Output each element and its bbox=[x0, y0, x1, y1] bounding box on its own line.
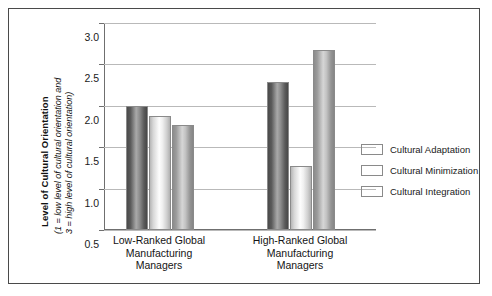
y-axis-line bbox=[104, 23, 105, 230]
bar-minim-group1 bbox=[149, 116, 171, 230]
y-axis-tick bbox=[99, 23, 104, 24]
y-axis-tick bbox=[99, 64, 104, 65]
gridline bbox=[104, 230, 376, 231]
y-axis-tick-label: 2.0 bbox=[69, 114, 99, 126]
plot-area bbox=[104, 23, 376, 230]
x-axis-category-label: Low-Ranked GlobalManufacturingManagers bbox=[84, 234, 234, 272]
y-axis-tick bbox=[99, 189, 104, 190]
y-axis-subtitle-line1: (1 = low level of cultural orientation a… bbox=[53, 78, 63, 234]
chart-frame: Level of Cultural Orientation (1 = low l… bbox=[8, 8, 480, 284]
y-axis-tick-label: 1.5 bbox=[69, 155, 99, 167]
bar-adapt-group2 bbox=[267, 82, 289, 230]
chart-legend: Cultural AdaptationCultural Minimization… bbox=[361, 141, 486, 204]
y-axis-tick-label: 1.0 bbox=[69, 197, 99, 209]
legend-label: Cultural Minimization bbox=[390, 165, 478, 176]
legend-swatch-integ bbox=[361, 186, 383, 197]
y-axis-tick bbox=[99, 147, 104, 148]
x-axis-category-label: High-Ranked GlobalManufacturingManagers bbox=[225, 234, 375, 272]
bar-integ-group2 bbox=[313, 50, 335, 230]
x-axis-category-label-line: Manufacturing bbox=[84, 247, 234, 260]
legend-item: Cultural Minimization bbox=[361, 162, 486, 178]
y-axis-tick-label: 3.0 bbox=[69, 31, 99, 43]
bar-adapt-group1 bbox=[126, 106, 148, 230]
y-axis-title: Level of Cultural Orientation bbox=[39, 96, 50, 227]
legend-label: Cultural Integration bbox=[390, 186, 470, 197]
legend-label: Cultural Adaptation bbox=[390, 144, 470, 155]
x-axis-category-label-line: Low-Ranked Global bbox=[84, 234, 234, 247]
legend-item: Cultural Adaptation bbox=[361, 141, 486, 157]
bar-minim-group2 bbox=[290, 166, 312, 230]
y-axis-tick-labels: 3.02.52.01.51.00.5 bbox=[67, 23, 99, 230]
x-axis-category-label-line: Managers bbox=[84, 259, 234, 272]
x-axis-category-label-line: Manufacturing bbox=[225, 247, 375, 260]
bar-integ-group1 bbox=[172, 125, 194, 230]
y-axis-tick bbox=[99, 230, 104, 231]
legend-item: Cultural Integration bbox=[361, 183, 486, 199]
y-axis-tick bbox=[99, 106, 104, 107]
y-axis-tick-label: 2.5 bbox=[69, 72, 99, 84]
gridline bbox=[104, 64, 376, 65]
y-axis-title-group: Level of Cultural Orientation (1 = low l… bbox=[9, 9, 67, 239]
legend-swatch-minim bbox=[361, 165, 383, 176]
legend-swatch-adapt bbox=[361, 144, 383, 155]
plot-inner bbox=[104, 23, 376, 230]
x-axis-category-label-line: Managers bbox=[225, 259, 375, 272]
gridline bbox=[104, 23, 376, 24]
x-axis-category-label-line: High-Ranked Global bbox=[225, 234, 375, 247]
